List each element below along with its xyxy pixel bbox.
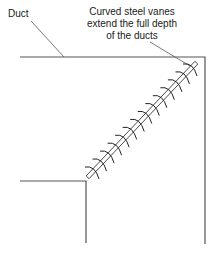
vane-rail: [86, 61, 198, 178]
inner-duct-wall: [20, 181, 86, 243]
duct-diagram: [0, 0, 217, 254]
vanes-leader-line: [150, 42, 190, 66]
duct-leader-line: [31, 21, 64, 57]
